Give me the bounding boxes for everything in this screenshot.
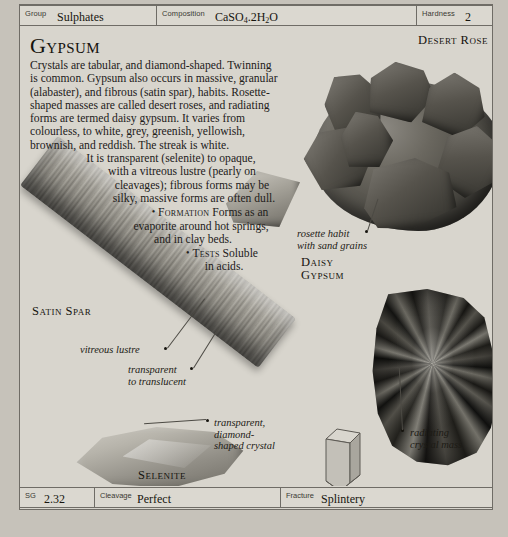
label-desert-rose: Desert Rose [418, 34, 488, 47]
annotation-line: with sand grains [297, 240, 367, 251]
footer-properties-row: SG 2.32 Cleavage Perfect Fracture Splint… [19, 487, 493, 508]
description-line: Crystals are tabular, and diamond-shaped… [30, 59, 298, 72]
footer-value-sg: 2.32 [44, 492, 65, 507]
header-value-hardness: 2 [465, 10, 471, 25]
footer-cell-fracture: Fracture Splintery [280, 487, 493, 508]
mineral-description: Crystals are tabular, and diamond-shaped… [30, 59, 298, 274]
annotation-line: diamond- [214, 429, 254, 440]
formation-bullet-icon: • [152, 206, 156, 217]
footer-label-sg: SG [25, 491, 36, 500]
annotation-rosette-habit: rosette habit with sand grains [297, 228, 367, 251]
header-label-group: Group [25, 9, 46, 18]
description-line: with a vitreous lustre (pearly on [30, 165, 298, 178]
tests-bullet-icon: • [186, 247, 190, 258]
label-satin-spar: Satin Spar [32, 305, 91, 318]
annotation-line: shaped crystal [214, 440, 275, 451]
description-line: silky, massive forms are often dull. [30, 192, 298, 205]
footer-value-cleavage: Perfect [137, 492, 171, 507]
annotation-line: rosette habit [297, 228, 349, 239]
footer-value-fracture: Splintery [321, 492, 365, 507]
header-label-composition: Composition [162, 9, 205, 18]
description-line: colourless, to white, grey, greenish, ye… [30, 125, 298, 138]
description-line: is common. Gypsum also occurs in massive… [30, 72, 298, 85]
description-line: brownish, and reddish. The streak is whi… [30, 139, 298, 152]
header-cell-group: Group Sulphates [19, 5, 156, 26]
annotation-selenite-crystal: transparent, diamond- shaped crystal [214, 417, 275, 452]
mineral-title: Gypsum [30, 33, 100, 59]
monoclinic-crystal-diagram [320, 425, 366, 486]
annotation-radiating-crystal-mass: radiating crystal mass [410, 427, 462, 450]
desert-rose-specimen-image [307, 63, 492, 248]
formation-heading-line: • Formation Forms as an [30, 205, 298, 219]
tests-heading-line: • Tests Soluble [30, 246, 298, 260]
tests-label: Tests [192, 247, 219, 260]
formation-label: Formation [158, 206, 209, 219]
header-value-group: Sulphates [57, 10, 104, 25]
footer-label-cleavage: Cleavage [100, 491, 132, 500]
annotation-transparency: transparent to translucent [128, 364, 186, 387]
field-guide-page: Group Sulphates Composition CaSO4.2H2O H… [0, 0, 508, 537]
footer-cell-sg: SG 2.32 [19, 487, 94, 508]
header-cell-composition: Composition CaSO4.2H2O [156, 5, 416, 26]
description-line: (alabaster), and fibrous (satin spar), h… [30, 86, 298, 99]
annotation-line: crystal mass [410, 439, 462, 450]
description-line: shaped masses are called desert roses, a… [30, 99, 298, 112]
annotation-line: transparent [128, 364, 177, 375]
formation-line: Forms as an [212, 206, 268, 219]
description-line: It is transparent (selenite) to opaque, [30, 152, 298, 165]
footer-cell-cleavage: Cleavage Perfect [94, 487, 280, 508]
annotation-vitreous-lustre: vitreous lustre [80, 344, 140, 356]
specimen-content-area: Gypsum Crystals are tabular, and diamond… [20, 27, 492, 486]
description-line: forms are termed daisy gypsum. It varies… [30, 112, 298, 125]
annotation-line: transparent, [214, 417, 265, 428]
annotation-line: to translucent [128, 376, 186, 387]
footer-label-fracture: Fracture [286, 491, 314, 500]
header-label-hardness: Hardness [422, 9, 455, 18]
label-daisy-gypsum: Daisy Gypsum [301, 256, 344, 282]
label-line: Daisy [301, 255, 334, 269]
label-line: Gypsum [301, 268, 344, 282]
label-selenite: Selenite [138, 469, 186, 482]
tests-line: in acids. [30, 260, 298, 273]
tests-line: Soluble [223, 247, 258, 260]
header-properties-row: Group Sulphates Composition CaSO4.2H2O H… [19, 5, 493, 26]
header-cell-hardness: Hardness 2 [416, 5, 493, 26]
formation-line: evaporite around hot springs, [30, 220, 298, 233]
description-line: cleavages); fibrous forms may be [30, 179, 298, 192]
header-value-composition: CaSO4.2H2O [215, 10, 278, 25]
annotation-line: radiating [410, 427, 449, 438]
formation-line: and in clay beds. [30, 233, 298, 246]
